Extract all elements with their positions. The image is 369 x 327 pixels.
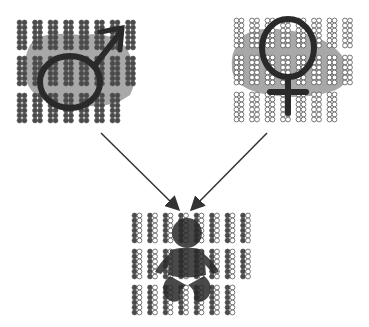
arrow-mother-to-child (192, 133, 267, 209)
arrow-father-to-child (101, 133, 178, 209)
inheritance-diagram (0, 0, 369, 327)
mother-karyotype (232, 18, 353, 122)
father-karyotype (17, 20, 135, 123)
child-karyotype (132, 213, 250, 315)
